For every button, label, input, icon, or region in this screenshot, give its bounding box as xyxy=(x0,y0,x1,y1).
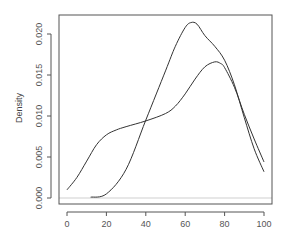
x-tick-label: 60 xyxy=(180,219,190,229)
y-tick-label: 0.000 xyxy=(34,187,44,210)
y-tick-label: 0.010 xyxy=(34,105,44,128)
x-tick-label: 100 xyxy=(256,219,271,229)
y-tick-label: 0.005 xyxy=(34,146,44,169)
y-tick-label: 0.020 xyxy=(34,23,44,46)
density-plot: 020406080100 0.0000.0050.0100.0150.020 D… xyxy=(0,0,292,241)
y-axis: 0.0000.0050.0100.0150.020 xyxy=(34,23,51,210)
plot-frame xyxy=(59,15,272,204)
density-curve-2 xyxy=(67,62,264,190)
density-curve-1 xyxy=(91,22,264,197)
y-axis-title: Density xyxy=(14,92,24,123)
x-axis: 020406080100 xyxy=(64,212,271,229)
x-tick-label: 0 xyxy=(64,219,69,229)
series-layer xyxy=(67,22,264,197)
x-tick-label: 20 xyxy=(101,219,111,229)
x-tick-label: 80 xyxy=(220,219,230,229)
y-tick-label: 0.015 xyxy=(34,64,44,87)
x-tick-label: 40 xyxy=(141,219,151,229)
